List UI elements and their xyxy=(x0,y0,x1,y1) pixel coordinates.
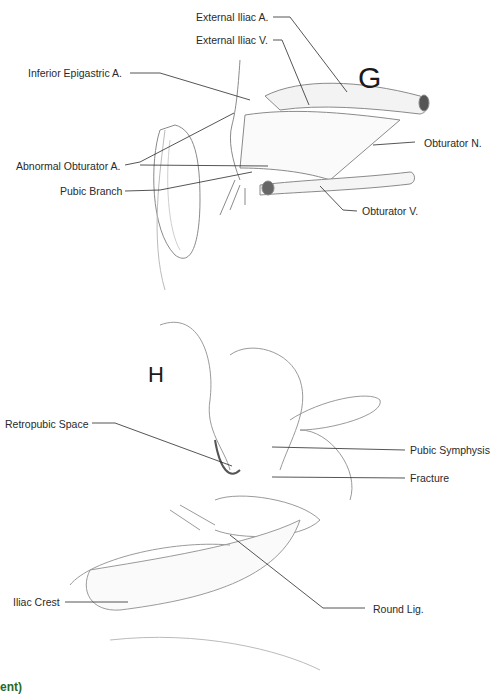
label-inferior-epigastric-artery: Inferior Epigastric A. xyxy=(28,67,122,79)
label-obturator-nerve: Obturator N. xyxy=(424,137,482,149)
panel-h-drawing xyxy=(70,322,380,670)
panel-letter-g: G xyxy=(358,63,381,93)
label-pubic-branch: Pubic Branch xyxy=(60,185,122,197)
label-obturator-vein: Obturator V. xyxy=(362,205,418,217)
label-fracture: Fracture xyxy=(410,472,449,484)
label-external-iliac-artery: External Iliac A. xyxy=(196,11,268,23)
label-abnormal-obturator-artery: Abnormal Obturator A. xyxy=(16,160,120,172)
label-round-ligament: Round Lig. xyxy=(373,603,424,615)
label-retropubic-space: Retropubic Space xyxy=(5,418,88,430)
label-pubic-symphysis: Pubic Symphysis xyxy=(410,444,490,456)
label-external-iliac-vein: External Iliac V. xyxy=(196,34,268,46)
panel-letter-h: H xyxy=(148,360,164,390)
caption-fragment: ent) xyxy=(0,680,22,694)
panel-g-drawing xyxy=(154,60,429,290)
label-iliac-crest: Iliac Crest xyxy=(13,596,60,608)
